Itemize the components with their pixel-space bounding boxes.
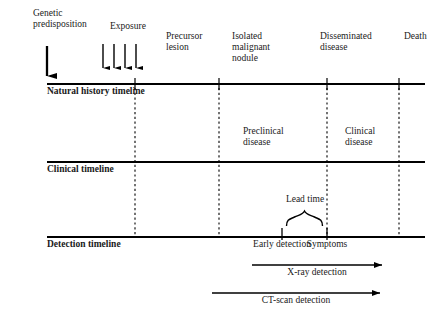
label-preclinical-disease: Preclinical disease bbox=[243, 126, 284, 148]
label-clinical-disease: Clinical disease bbox=[345, 126, 375, 148]
label-detection-timeline: Detection timeline bbox=[47, 239, 121, 250]
cancer-natural-history-diagram bbox=[0, 0, 448, 321]
label-death: Death bbox=[404, 31, 427, 42]
label-ct-scan-detection: CT-scan detection bbox=[262, 295, 331, 306]
label-symptoms: Symptoms bbox=[307, 239, 348, 250]
label-isolated-malignant-nodule: Isolated malignant nodule bbox=[232, 31, 270, 64]
label-exposure: Exposure bbox=[110, 21, 146, 32]
lead-time-brace bbox=[287, 211, 323, 226]
label-genetic-predisposition: Genetic predisposition bbox=[33, 8, 87, 30]
label-xray-detection: X-ray detection bbox=[287, 267, 346, 278]
label-natural-history-timeline: Natural history timeline bbox=[47, 86, 145, 97]
exposure-arrows bbox=[103, 44, 136, 68]
label-disseminated-disease: Disseminated disease bbox=[320, 31, 372, 53]
label-lead-time: Lead time bbox=[286, 194, 324, 205]
label-clinical-timeline: Clinical timeline bbox=[47, 164, 114, 175]
label-precursor-lesion: Precursor lesion bbox=[166, 31, 202, 53]
label-early-detection: Early detection bbox=[253, 239, 311, 250]
